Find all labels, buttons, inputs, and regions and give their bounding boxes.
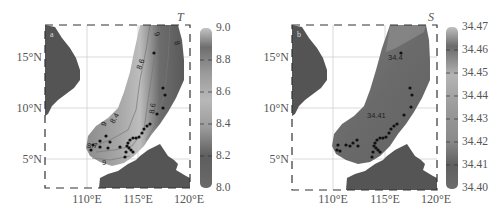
cb-tick: 34.40 [462, 181, 488, 193]
xtick-115e: 115°E [360, 192, 410, 207]
xtick-115e: 115°E [113, 192, 163, 207]
svg-text:34.41: 34.41 [367, 111, 386, 120]
cb-tick: 8.8 [216, 53, 230, 65]
variable-label-t: T [177, 10, 184, 25]
xtick-110e: 110°E [308, 192, 358, 207]
cb-tick: 34.44 [462, 89, 488, 101]
cb-tick: 8.0 [216, 181, 230, 193]
xtick-120e: 120°E [164, 192, 214, 207]
xtick-110e: 110°E [62, 192, 112, 207]
field-temperature [86, 25, 184, 166]
cb-tick: 34.47 [462, 20, 488, 32]
cb-tick: 8.2 [216, 149, 230, 161]
cb-tick: 34.41 [462, 158, 488, 170]
colorbar-temperature [200, 28, 212, 188]
svg-text:9: 9 [102, 158, 106, 167]
variable-label-s: S [428, 10, 434, 25]
panel-salinity: 34.41 34.4 b [250, 0, 500, 220]
xtick-120e: 120°E [411, 192, 461, 207]
cb-tick: 34.46 [462, 43, 488, 55]
cb-tick: 34.43 [462, 112, 488, 124]
panel-label-b: b [297, 30, 301, 39]
panel-label-a: a [50, 30, 54, 39]
ytick-10n: 10°N [247, 101, 289, 116]
ytick-15n: 15°N [247, 50, 289, 65]
svg-text:8.6: 8.6 [147, 103, 158, 115]
ytick-5n: 5°N [247, 152, 289, 167]
ytick-15n: 15°N [0, 50, 42, 65]
cb-tick: 8.4 [216, 117, 230, 129]
ytick-10n: 10°N [0, 101, 42, 116]
cb-tick: 34.42 [462, 135, 488, 147]
ytick-5n: 5°N [0, 152, 42, 167]
panel-temperature: 9 8.6 8.4 9 8.7 9 8.6 8 [0, 0, 250, 220]
cb-tick: 34.45 [462, 66, 488, 78]
cb-tick: 8.6 [216, 85, 230, 97]
cb-tick: 9.0 [216, 21, 230, 33]
field-salinity [332, 25, 430, 164]
